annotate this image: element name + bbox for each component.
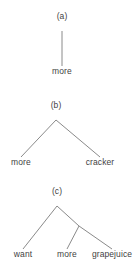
- tree-edge-c-1: [57, 206, 79, 226]
- tree-edge-c-2: [67, 226, 79, 249]
- leaf-label-c-0: want: [14, 249, 32, 259]
- leaf-label-c-1: more: [57, 249, 77, 259]
- tree-edge-c-3: [79, 226, 112, 249]
- tree-edges-c: [0, 0, 139, 270]
- tree-edge-c-0: [23, 206, 57, 249]
- panel-tag-c: (c): [52, 186, 62, 196]
- leaf-label-c-2: grapejuice: [92, 249, 132, 259]
- tree-diagram-figure: (a) more (b) more cracker (c) want more …: [0, 0, 139, 270]
